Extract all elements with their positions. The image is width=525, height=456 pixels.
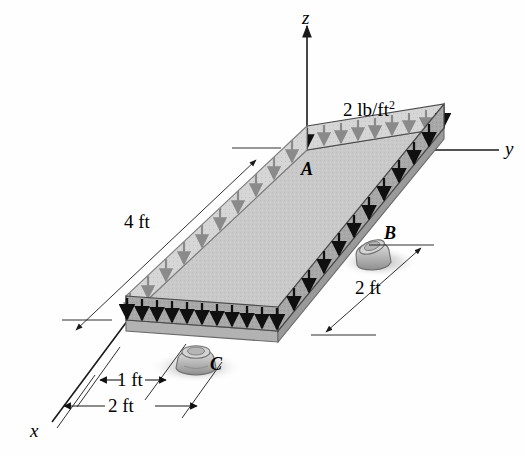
- dimension-label-4ft: 4 ft: [124, 212, 150, 231]
- point-label-b: B: [384, 224, 396, 242]
- dimension-label-2ft-right: 2 ft: [355, 278, 381, 297]
- diagram-canvas: [0, 0, 525, 456]
- engineering-diagram: z y x 2 lb/ft2 A B C 4 ft 2 ft 1 ft 2 ft: [0, 0, 525, 456]
- dimension-label-1ft: 1 ft: [117, 370, 143, 389]
- load-exponent: 2: [389, 98, 395, 112]
- point-label-a: A: [301, 160, 313, 178]
- dimension-label-2ft-bottom: 2 ft: [108, 396, 134, 415]
- load-magnitude-text: 2 lb/ft: [343, 99, 389, 120]
- load-magnitude-label: 2 lb/ft2: [343, 100, 395, 119]
- axis-label-z: z: [302, 8, 309, 27]
- axis-label-y: y: [505, 139, 513, 158]
- axis-label-x: x: [30, 421, 38, 440]
- point-label-c: C: [210, 355, 222, 373]
